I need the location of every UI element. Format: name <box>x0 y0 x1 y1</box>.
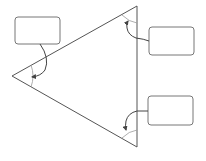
label-box-top-right-angle <box>149 27 194 55</box>
label-box-bottom-right-angle <box>148 96 193 125</box>
angle-arc-left <box>31 65 33 87</box>
angle-arc-bottom-right <box>122 130 137 138</box>
angle-arc-top-right <box>122 15 137 23</box>
label-box-left-angle <box>15 17 60 44</box>
triangle-angles-diagram <box>0 0 206 161</box>
connector-arrow-top-right <box>127 21 149 41</box>
